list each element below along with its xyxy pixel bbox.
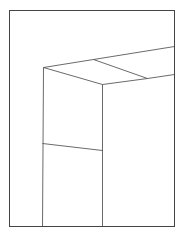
ceiling-diagonal	[94, 60, 148, 79]
box-left-vertical	[43, 68, 44, 227]
box-top-front-edge	[103, 79, 148, 85]
box-top-left-edge	[44, 68, 103, 85]
drawing-lines	[43, 47, 175, 227]
box-middle-line	[43, 144, 103, 151]
ceiling-far-edge	[94, 47, 175, 60]
perspective-line-drawing	[0, 0, 176, 238]
drawing-frame	[10, 11, 175, 227]
box-top-back-edge	[44, 60, 94, 68]
ceiling-near-edge	[148, 75, 175, 79]
